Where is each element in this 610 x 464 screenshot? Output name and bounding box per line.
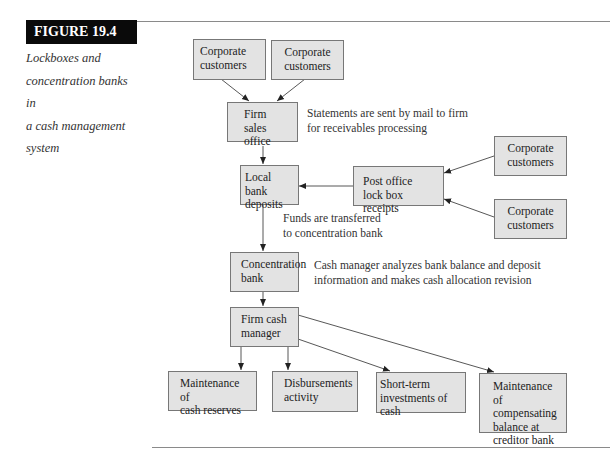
annotation-statements: Statements are sent by mail to firm for … [307, 106, 468, 135]
node-text: customers [501, 219, 560, 233]
node-text: balance at [493, 421, 560, 435]
node-text: cash reserves [180, 404, 250, 418]
node-text: investments of cash [380, 392, 464, 419]
node-text: Concentration [241, 258, 292, 272]
node-text: manager [241, 327, 292, 341]
node-disbursements: Disbursements activity [272, 371, 358, 412]
node-text: customers [501, 156, 560, 170]
node-text: creditor bank [493, 434, 560, 448]
node-firm-cash-manager: Firm cash manager [230, 307, 299, 347]
node-text: deposits [245, 198, 292, 212]
node-text: office [244, 135, 291, 149]
node-compensating-balance: Maintenance of compensating balance at c… [479, 373, 567, 433]
node-corporate-customers-4: Corporate customers [494, 199, 567, 239]
node-cash-reserves: Maintenance of cash reserves [168, 371, 257, 411]
node-short-term-investments: Short-term investments of cash [376, 372, 466, 413]
node-corporate-customers-1: Corporate customers [193, 39, 266, 80]
node-corporate-customers-2: Corporate customers [271, 40, 344, 80]
node-text: Local bank [245, 171, 292, 198]
node-text: Maintenance of [180, 377, 250, 404]
node-text: Maintenance of [493, 380, 560, 407]
annotation-line: to concentration bank [283, 226, 383, 241]
node-text: bank [241, 272, 292, 286]
node-local-bank-deposits: Local bank deposits [240, 165, 299, 205]
node-post-office-lockbox: Post office lock box receipts [353, 166, 444, 206]
annotation-cash-manager: Cash manager analyzes bank balance and d… [314, 258, 541, 287]
node-text: Disbursements [284, 377, 351, 391]
node-text: Corporate [501, 205, 560, 219]
node-text: customers [278, 60, 337, 74]
annotation-line: for receivables processing [307, 121, 468, 136]
node-text: Corporate [501, 142, 560, 156]
node-text: Short-term [380, 378, 464, 392]
node-concentration-bank: Concentration bank [230, 252, 299, 292]
node-text: Post office [363, 175, 437, 189]
node-text: Firm cash [241, 313, 292, 327]
annotation-line: Funds are transferred [283, 211, 383, 226]
annotation-funds: Funds are transferred to concentration b… [283, 211, 383, 240]
annotation-line: information and makes cash allocation re… [314, 273, 541, 288]
node-text: activity [284, 391, 351, 405]
node-corporate-customers-3: Corporate customers [494, 136, 567, 176]
node-firm-sales-office: Firm sales office [227, 102, 298, 142]
node-text: Corporate [200, 45, 259, 59]
node-text: compensating [493, 407, 560, 421]
annotation-line: Cash manager analyzes bank balance and d… [314, 258, 541, 273]
node-text: Corporate [278, 46, 337, 60]
node-text: customers [200, 59, 259, 73]
node-text: Firm sales [244, 108, 291, 135]
annotation-line: Statements are sent by mail to firm [307, 106, 468, 121]
